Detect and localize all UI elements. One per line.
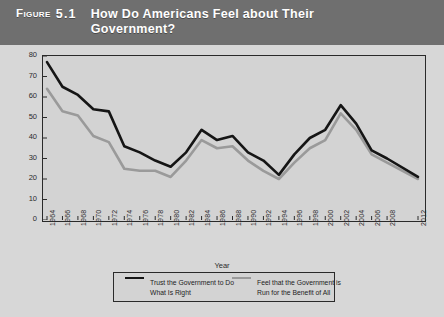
x-tick-label: 1976 [142,210,149,226]
x-tick-label: 1992 [265,210,272,226]
plot-area [42,55,426,222]
figure-label: Figure [16,7,51,19]
x-tick-label: 1972 [111,210,118,226]
y-tick-label: 40 [15,133,37,140]
figure-header-band: Figure5.1How Do Americans Feel about The… [0,0,444,45]
y-tick-label: 0 [15,215,37,222]
x-tick-label: 1984 [204,210,211,226]
x-tick-label: 1996 [296,210,303,226]
x-axis-label: Year [0,261,444,270]
y-tick-label: 10 [15,195,37,202]
line-chart-svg [43,56,424,220]
x-tick-label: 1974 [126,210,133,226]
x-tick-label: 2008 [389,210,396,226]
x-tick-label: 2002 [343,210,350,226]
x-tick-label: 1968 [80,210,87,226]
x-tick-label: 1988 [235,210,242,226]
figure-container: Figure5.1How Do Americans Feel about The… [0,0,444,317]
figure-header-content: Figure5.1How Do Americans Feel about The… [16,7,432,37]
x-tick-label: 1986 [219,210,226,226]
x-tick-label: 1964 [49,210,56,226]
x-tick-label: 1980 [173,210,180,226]
x-tick-label: 1970 [95,210,102,226]
y-tick-label: 20 [15,174,37,181]
y-tick-label: 70 [15,72,37,79]
figure-title: How Do Americans Feel about Their Govern… [91,7,356,37]
x-tick-label: 2004 [358,210,365,226]
y-tick-label: 80 [15,51,37,58]
legend-label-benefit-of-all: Feel that the Government is Run for the … [257,278,353,297]
y-tick-label: 50 [15,113,37,120]
legend-swatch-benefit-of-all [232,277,251,279]
legend-swatch-trust-government [125,277,144,279]
x-tick-label: 1994 [281,210,288,226]
y-tick-label: 30 [15,154,37,161]
chart-legend: Trust the Government to Do What Is Right… [113,272,335,302]
x-tick-label: 1990 [250,210,257,226]
x-tick-label: 2006 [374,210,381,226]
x-tick-label: 1982 [188,210,195,226]
x-tick-label: 1966 [64,210,71,226]
x-tick-label: 1998 [312,210,319,226]
x-tick-label: 2000 [327,210,334,226]
x-tick-label: 2012 [420,210,427,226]
y-tick-label: 60 [15,92,37,99]
figure-number: 5.1 [56,7,77,21]
series-line-trust-government [47,62,418,177]
legend-label-trust-government: Trust the Government to Do What Is Right [150,278,246,297]
x-tick-label: 1978 [157,210,164,226]
